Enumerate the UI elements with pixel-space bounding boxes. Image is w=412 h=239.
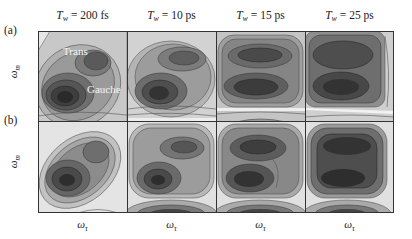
x-axis-subscript: τ bbox=[174, 224, 177, 233]
y-axis-symbol: ω bbox=[7, 70, 19, 78]
contour-plot bbox=[305, 31, 394, 122]
x-axis-symbol: ω bbox=[77, 218, 85, 230]
y-axis-label-b: ωm bbox=[7, 155, 22, 168]
column-title-2: Tw = 10 ps bbox=[127, 9, 216, 23]
title-value: = 25 ps bbox=[337, 9, 374, 21]
x-axis-subscript: τ bbox=[263, 224, 266, 233]
x-axis-label-1: ωτ bbox=[38, 218, 127, 233]
title-value: = 15 ps bbox=[248, 9, 285, 21]
column-divider bbox=[216, 31, 217, 213]
panel-b-15ps bbox=[216, 122, 305, 213]
contour-plot bbox=[216, 31, 305, 122]
panel-b-25ps bbox=[305, 122, 394, 213]
column-divider bbox=[127, 31, 128, 213]
row-label-b: (b) bbox=[4, 114, 17, 126]
x-axis-label-4: ωτ bbox=[305, 218, 394, 233]
title-value: = 200 fs bbox=[68, 9, 109, 21]
annotation-gauche: Gauche bbox=[87, 83, 121, 95]
x-axis-symbol: ω bbox=[344, 218, 352, 230]
y-axis-subscript: m bbox=[13, 65, 22, 70]
row-divider bbox=[38, 121, 394, 122]
annotation-trans: Trans bbox=[63, 45, 88, 57]
contour-plot bbox=[127, 122, 216, 213]
panel-a-25ps bbox=[305, 31, 394, 122]
column-title-3: Tw = 15 ps bbox=[216, 9, 305, 23]
x-axis-label-2: ωτ bbox=[127, 218, 216, 233]
column-title-1: Tw = 200 fs bbox=[38, 9, 127, 23]
x-axis-subscript: τ bbox=[85, 224, 88, 233]
contour-plot bbox=[216, 122, 305, 213]
panel-b-10ps bbox=[127, 122, 216, 213]
column-title-4: Tw = 25 ps bbox=[305, 9, 394, 23]
panel-b-200fs bbox=[38, 122, 127, 213]
panel-a-10ps bbox=[127, 31, 216, 122]
x-axis-label-3: ωτ bbox=[216, 218, 305, 233]
y-axis-symbol: ω bbox=[7, 160, 19, 168]
column-divider bbox=[305, 31, 306, 213]
contour-plot bbox=[38, 122, 127, 213]
title-value: = 10 ps bbox=[159, 9, 196, 21]
panel-a-15ps bbox=[216, 31, 305, 122]
row-label-a: (a) bbox=[4, 24, 17, 36]
y-axis-label-a: ωm bbox=[7, 65, 22, 78]
contour-plot bbox=[305, 122, 394, 213]
x-axis-symbol: ω bbox=[166, 218, 174, 230]
x-axis-symbol: ω bbox=[255, 218, 263, 230]
x-axis-subscript: τ bbox=[352, 224, 355, 233]
y-axis-subscript: m bbox=[13, 155, 22, 160]
contour-plot bbox=[127, 31, 216, 122]
